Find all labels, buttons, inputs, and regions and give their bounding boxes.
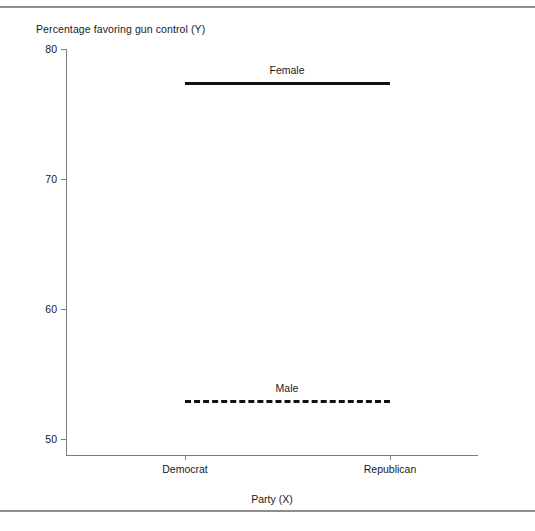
plot-area: 80 70 60 50 40 30 20 Democrat Re	[66, 49, 478, 456]
y-tick-mark	[61, 439, 66, 440]
y-tick-label: 70	[45, 173, 57, 185]
y-axis-title: Percentage favoring gun control (Y)	[36, 23, 205, 35]
x-axis-line	[66, 455, 478, 456]
y-tick-label: 80	[45, 43, 57, 55]
y-tick-label: 60	[45, 303, 57, 315]
y-tick-mark	[61, 49, 66, 50]
x-axis-title: Party (X)	[66, 493, 478, 505]
x-tick-mark-republican	[390, 455, 391, 460]
y-tick-mark	[61, 179, 66, 180]
x-tick-mark-democrat	[185, 455, 186, 460]
chart-figure: Percentage favoring gun control (Y) 80 7…	[0, 0, 535, 531]
y-tick-mark	[61, 309, 66, 310]
x-tick-label-democrat: Democrat	[162, 463, 208, 475]
y-tick-label: 50	[45, 433, 57, 445]
series-label-male: Male	[276, 382, 299, 394]
x-tick-label-republican: Republican	[364, 463, 417, 475]
y-axis-line	[66, 49, 67, 456]
series-line-male	[185, 400, 390, 403]
series-line-female	[185, 82, 390, 85]
series-label-female: Female	[269, 64, 304, 76]
